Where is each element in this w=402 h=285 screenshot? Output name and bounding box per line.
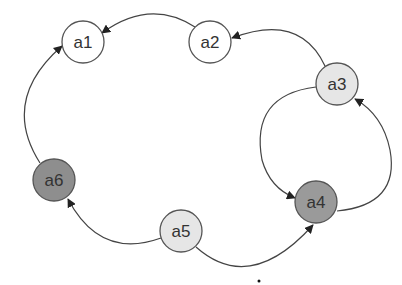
node-a6-label: a6 xyxy=(45,171,64,190)
diagram-canvas: a1 a2 a3 a4 a5 a6 xyxy=(0,0,402,285)
node-a2: a2 xyxy=(189,21,231,63)
node-a4: a4 xyxy=(295,181,337,223)
edge-a3-to-a4 xyxy=(260,87,316,198)
dot-mark xyxy=(258,280,261,283)
edge-a2-to-a1 xyxy=(102,14,195,33)
node-a3: a3 xyxy=(316,63,358,105)
edge-a6-to-a1 xyxy=(24,46,62,163)
node-a6: a6 xyxy=(33,159,75,201)
node-a1: a1 xyxy=(62,21,104,63)
edge-a3-to-a2 xyxy=(232,30,325,66)
node-a2-label: a2 xyxy=(201,33,220,52)
edge-a5-to-a4 xyxy=(196,225,313,267)
node-a5-label: a5 xyxy=(172,222,191,241)
node-a4-label: a4 xyxy=(307,193,326,212)
edge-a4-to-a3 xyxy=(337,99,391,211)
edge-a5-to-a6 xyxy=(68,199,161,244)
node-a1-label: a1 xyxy=(74,33,93,52)
node-a3-label: a3 xyxy=(328,75,347,94)
node-a5: a5 xyxy=(160,210,202,252)
